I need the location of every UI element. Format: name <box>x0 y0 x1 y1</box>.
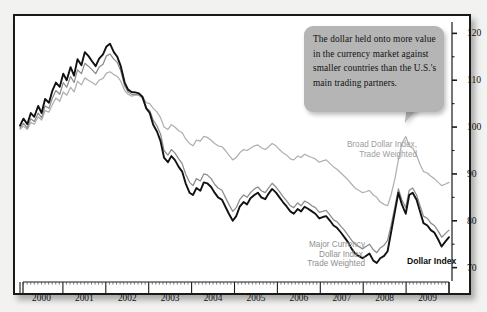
y-tick-label: 110 <box>467 74 481 85</box>
plot-area: 120110100908070 200020012002200320042005… <box>15 16 473 297</box>
series-label-dollar-index: Dollar Index <box>407 257 456 267</box>
x-tick-label-2009: 2009 <box>408 293 448 303</box>
x-tick-label-2006: 2006 <box>279 293 319 303</box>
x-tick-label-2005: 2005 <box>236 293 276 303</box>
callout-bubble: The dollar held onto more value in the c… <box>304 26 444 112</box>
y-tick-label: 100 <box>467 121 481 132</box>
series-label-major-currency-dollar-index: Major Currency Dollar Index, Trade Weigh… <box>273 240 365 269</box>
y-tick-label: 70 <box>467 262 477 273</box>
x-tick-label-2000: 2000 <box>21 293 61 303</box>
x-tick-label-2003: 2003 <box>150 293 190 303</box>
x-tick-label-2002: 2002 <box>107 293 147 303</box>
chart-panel: 120110100908070 200020012002200320042005… <box>13 14 471 295</box>
chart-screenshot: 120110100908070 200020012002200320042005… <box>0 0 487 312</box>
x-tick-label-2007: 2007 <box>322 293 362 303</box>
y-tick-label: 90 <box>467 168 477 179</box>
callout-text: The dollar held onto more value in the c… <box>313 32 437 90</box>
x-tick-label-2001: 2001 <box>64 293 104 303</box>
x-tick-label-2004: 2004 <box>193 293 233 303</box>
y-tick-label: 120 <box>467 27 481 38</box>
y-tick-label: 80 <box>467 215 477 226</box>
x-tick-label-2008: 2008 <box>365 293 405 303</box>
series-label-broad-dollar-index: Broad Dollar Index, Trade Weighted <box>321 140 417 159</box>
